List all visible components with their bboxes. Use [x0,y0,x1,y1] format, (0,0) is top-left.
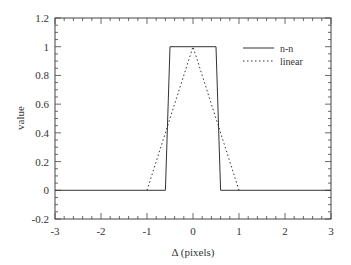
x-tick-label: -1 [142,225,151,237]
legend-label: n-n [280,43,293,54]
y-tick-label: 0.2 [35,156,49,168]
x-tick-label: 1 [236,225,242,237]
series-n-n [55,47,331,191]
x-tick-label: 0 [190,225,196,237]
x-axis-label: Δ (pixels) [172,246,215,259]
data-series [55,47,331,191]
y-axis-label: value [14,106,26,130]
y-tick-label: 1 [44,41,50,53]
legend: n-nlinear [243,43,303,67]
y-tick-label: -0.2 [32,213,49,225]
x-tick-label: -3 [50,225,60,237]
legend-label: linear [280,56,303,67]
y-tick-label: 0.6 [35,98,49,110]
x-tick-label: -2 [96,225,105,237]
y-tick-label: 0.4 [35,127,49,139]
x-tick-label: 2 [282,225,288,237]
y-tick-label: 0 [44,184,50,196]
y-tick-label: 0.8 [35,69,49,81]
series-linear [147,47,239,191]
x-tick-label: 3 [328,225,334,237]
chart: -3-2-10123-0.200.20.40.60.811.2 n-nlinea… [0,0,351,265]
y-tick-label: 1.2 [35,12,49,24]
